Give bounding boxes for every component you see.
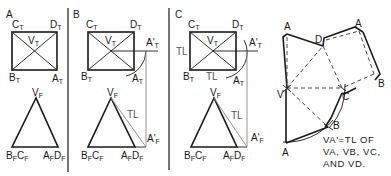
svg-text:CT: CT [12, 19, 24, 31]
svg-text:VT: VT [207, 35, 219, 47]
svg-text:A'T: A'T [249, 37, 263, 49]
pattern-note: VA'=TL OF VA, VB, VC, AND VD. [323, 134, 381, 169]
panel-a-top-view: CT DT VT BT AT [9, 19, 64, 85]
svg-text:A'F: A'F [251, 132, 264, 144]
panel-label-b: B [73, 9, 80, 20]
panel-a: A CT DT VT BT AT VF BFCF AFDF [6, 9, 65, 162]
svg-text:DT: DT [232, 19, 244, 31]
svg-text:TL: TL [127, 109, 139, 120]
svg-text:BFCF: BFCF [6, 150, 28, 162]
panel-b: B CT DT VT A'T BT AT VF TL A'F [73, 9, 160, 162]
svg-text:AFDF: AFDF [43, 150, 65, 162]
panel-a-front-view: VF BFCF AFDF [6, 87, 65, 162]
panel-c-front-view: VF TL A'F BFCF AFDF [184, 87, 264, 162]
pattern-label-b-bottom: B [333, 120, 340, 131]
panel-c-top-view: CT DT VT A'T TL TL BT AT [176, 19, 263, 147]
svg-text:AT: AT [233, 75, 245, 87]
svg-text:AFDF: AFDF [223, 150, 245, 162]
svg-text:A'F: A'F [147, 133, 160, 145]
svg-text:A'T: A'T [146, 37, 160, 49]
pattern-label-b-right: B [378, 78, 385, 89]
pattern-label-a-bottom: A [282, 147, 289, 158]
svg-text:TL: TL [176, 46, 188, 57]
svg-text:CT: CT [86, 19, 98, 31]
svg-text:TL: TL [231, 110, 243, 121]
panel-label-c: C [175, 9, 182, 20]
panel-c: C CT DT VT A'T TL TL BT AT VF TL A'F B [175, 9, 264, 162]
pattern-label-c: C [342, 91, 349, 102]
svg-text:AT: AT [132, 73, 144, 85]
svg-text:DT: DT [50, 19, 62, 31]
svg-text:CT: CT [188, 19, 200, 31]
svg-text:VT: VT [28, 35, 40, 47]
svg-text:BT: BT [81, 71, 93, 83]
svg-text:TL: TL [206, 71, 218, 82]
svg-text:BT: BT [9, 72, 21, 84]
pattern-label-d: D [315, 34, 322, 45]
svg-text:AFDF: AFDF [121, 150, 143, 162]
svg-text:BT: BT [183, 71, 195, 83]
svg-text:BFCF: BFCF [81, 150, 103, 162]
svg-text:VA, VB, VC,: VA, VB, VC, [323, 146, 381, 157]
panel-b-front-view: VF TL A'F BFCF AFDF [81, 87, 160, 162]
pattern-label-a-top-left: A [284, 21, 291, 32]
pattern-label-v: V [277, 89, 284, 100]
svg-text:DT: DT [130, 19, 142, 31]
svg-text:BFCF: BFCF [184, 150, 206, 162]
panel-b-top-view: CT DT VT A'T BT AT [81, 19, 160, 147]
svg-text:AND VD.: AND VD. [323, 158, 366, 169]
svg-text:VF: VF [210, 87, 221, 99]
svg-text:AT: AT [52, 73, 64, 85]
pattern-development: A D A B C V B A VA'=TL OF VA, VB, VC, AN… [277, 18, 385, 169]
svg-text:VF: VF [32, 87, 43, 99]
pyramid-development-diagram: A CT DT VT BT AT VF BFCF AFDF B [0, 0, 391, 176]
svg-text:VT: VT [105, 35, 117, 47]
svg-text:VA'=TL OF: VA'=TL OF [323, 134, 374, 145]
pattern-label-a-top-right: A [355, 18, 362, 29]
svg-text:VF: VF [107, 87, 118, 99]
